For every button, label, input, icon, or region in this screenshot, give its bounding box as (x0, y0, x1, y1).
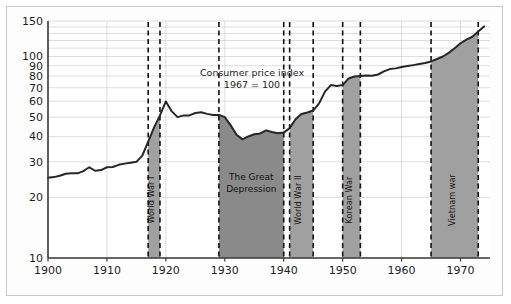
y-axis-tick-label: 30 (29, 156, 43, 169)
y-axis-tick-label: 60 (29, 95, 43, 108)
y-axis-tick-label: 70 (29, 82, 43, 95)
x-axis-tick-label: 1930 (211, 264, 239, 277)
event-band-label: Vietnam war (447, 173, 457, 225)
y-axis-tick-label: 40 (29, 130, 43, 143)
x-axis-tick-label: 1920 (152, 264, 180, 277)
cpi-line-chart: World War IThe GreatDepressionWorld War … (0, 0, 511, 304)
x-axis-tick-label: 1950 (329, 264, 357, 277)
plot-canvas: World War IThe GreatDepressionWorld War … (0, 0, 511, 304)
chart-figure: World War IThe GreatDepressionWorld War … (0, 0, 511, 304)
x-axis-tick-label: 1940 (270, 264, 298, 277)
x-axis-tick-label: 1960 (388, 264, 416, 277)
event-band-label: Korean War (344, 176, 354, 224)
y-axis-tick-label: 50 (29, 111, 43, 124)
y-axis-tick-label: 150 (22, 15, 43, 28)
event-band-label: The Great (228, 172, 274, 182)
y-axis-tick-label: 20 (29, 191, 43, 204)
event-band-label: World War I (146, 176, 156, 223)
annotation-line-1: Consumer price index (200, 67, 304, 78)
y-axis-tick-label: 100 (22, 50, 43, 63)
y-axis-tick-label: 10 (29, 252, 43, 265)
x-axis-tick-label: 1900 (34, 264, 62, 277)
annotation-line-2: 1967 = 100 (224, 79, 280, 90)
x-axis-tick-label: 1910 (93, 264, 121, 277)
event-band-label: World War II (293, 175, 303, 224)
event-band-label: Depression (226, 184, 276, 194)
x-axis-tick-label: 1970 (447, 264, 475, 277)
